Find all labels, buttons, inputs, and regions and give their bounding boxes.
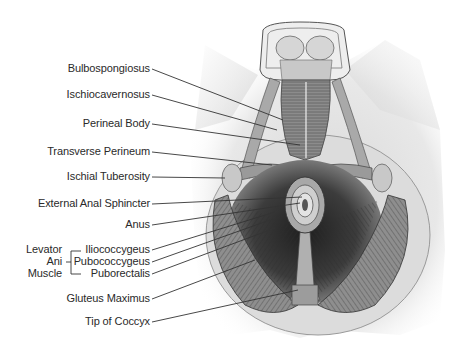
- vulva-structure: [260, 22, 350, 80]
- group-label-muscle: Muscle: [28, 267, 62, 280]
- label-puborectalis: Puborectalis: [91, 267, 150, 280]
- label-bulbospongiosus: Bulbospongiosus: [68, 62, 150, 75]
- label-perineal-body: Perineal Body: [83, 117, 150, 130]
- label-ischial-tuberosity: Ischial Tuberosity: [67, 170, 150, 183]
- label-external-anal-sphincter: External Anal Sphincter: [38, 197, 150, 210]
- coccyx-tip: [292, 285, 318, 305]
- label-anus: Anus: [125, 218, 150, 231]
- label-ischiocavernosus: Ischiocavernosus: [67, 88, 150, 101]
- label-tip-of-coccyx: Tip of Coccyx: [85, 315, 150, 328]
- perineum-anatomy-figure: Bulbospongiosus Ischiocavernosus Perinea…: [0, 0, 465, 353]
- label-transverse-perineum: Transverse Perineum: [47, 145, 150, 158]
- label-gluteus-maximus: Gluteus Maximus: [67, 292, 150, 305]
